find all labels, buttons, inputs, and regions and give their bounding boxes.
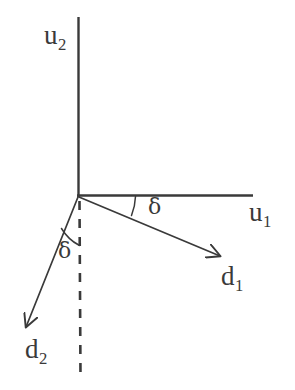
vector-label-d1-subscript: 1	[235, 276, 244, 295]
vector-label-d1-base: d	[221, 261, 235, 291]
vertical-dashed-reference-line	[80, 201, 81, 378]
vector-diagram-figure: u2 u1 d1 d2 δ δ	[0, 0, 295, 390]
axis-label-u2-subscript: 2	[58, 35, 67, 54]
vector-label-d2-subscript: 2	[39, 349, 48, 368]
axis-label-u1: u1	[249, 199, 271, 231]
axis-label-u1-base: u	[249, 197, 263, 227]
angle-label-delta-2: δ	[58, 240, 71, 262]
vector-label-d2-base: d	[25, 334, 39, 364]
vector-label-d2: d2	[25, 336, 47, 368]
vector-label-d1: d1	[221, 263, 243, 295]
angle-arc-delta-1	[132, 197, 136, 216]
axis-label-u1-subscript: 1	[263, 212, 272, 231]
axis-label-u2: u2	[44, 22, 66, 54]
angle-label-delta-1: δ	[148, 196, 161, 218]
axis-label-u2-base: u	[44, 20, 58, 50]
